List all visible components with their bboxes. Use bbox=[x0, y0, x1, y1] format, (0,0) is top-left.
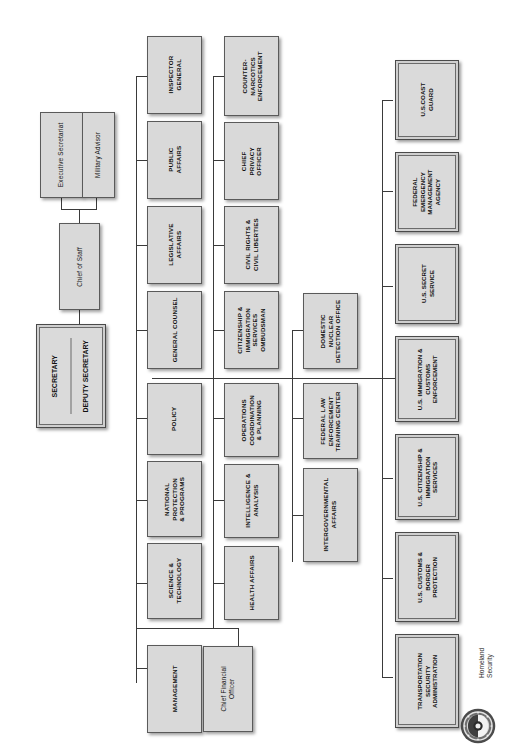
riser-offices-row2-lower bbox=[213, 378, 214, 628]
box-us-immigration-and-customs-enforcement[interactable]: U.S. IMMIGRATION &CUSTOMSENFORCEMENT bbox=[395, 336, 459, 422]
box-chief-privacy-officer[interactable]: CHIEFPRIVACYOFFICER bbox=[224, 122, 279, 200]
stub-coast-guard bbox=[382, 100, 393, 101]
general-counsel-label: GENERAL COUNSEL bbox=[171, 297, 179, 362]
us-secret-service-label: U.S. SECRETSERVICE bbox=[419, 265, 434, 304]
secretary-label: SECRETARY bbox=[51, 355, 60, 397]
connector-mil-advisor-stub bbox=[96, 198, 97, 209]
box-intergovernmental-affairs[interactable]: INTERGOVERNMENTALAFFAIRS bbox=[303, 468, 358, 562]
box-general-counsel[interactable]: GENERAL COUNSEL bbox=[147, 291, 202, 369]
national-protection-and-programs-label: NATIONALPROTECTION& PROGRAMS bbox=[163, 477, 186, 522]
box-transportation-security-administration[interactable]: TRANSPORTATIONSECURITYADMINISTRATION bbox=[395, 634, 459, 728]
box-health-affairs[interactable]: HEALTH AFFAIRS bbox=[224, 546, 279, 620]
org-chart-canvas: Executive Secretariat Military Advisor C… bbox=[0, 0, 509, 753]
riser-management-bracket bbox=[136, 628, 137, 668]
box-us-coast-guard[interactable]: U.S.COASTGUARD bbox=[395, 60, 459, 140]
transportation-security-administration-label: TRANSPORTATIONSECURITYADMINISTRATION bbox=[416, 653, 439, 710]
citizenship-and-immigration-services-ombudsman-label: CITIZENSHIP &IMMIGRATIONSERVICESOMBUDSMA… bbox=[236, 306, 266, 353]
box-citizenship-and-immigration-services-ombudsman[interactable]: CITIZENSHIP &IMMIGRATIONSERVICESOMBUDSMA… bbox=[224, 291, 279, 369]
stub-public-affairs bbox=[136, 160, 147, 161]
stub-uscis bbox=[382, 478, 393, 479]
box-us-secret-service[interactable]: U.S. SECRETSERVICE bbox=[395, 244, 459, 324]
box-inspector-general[interactable]: INSPECTORGENERAL bbox=[147, 36, 202, 114]
box-domestic-nuclear-detection-office[interactable]: DOMESTICNUCLEARDETECTION OFFICE bbox=[303, 293, 358, 369]
stub-chief-privacy bbox=[213, 160, 224, 161]
box-executive-secretariat[interactable]: Executive Secretariat bbox=[40, 112, 83, 198]
bracket-management-cfo bbox=[136, 628, 238, 629]
main-trunk bbox=[152, 378, 402, 379]
stub-cbp bbox=[382, 578, 393, 579]
science-and-technology-label: SCIENCE &TECHNOLOGY bbox=[167, 558, 182, 604]
box-federal-emergency-management-agency[interactable]: FEDERALEMERGENCYMANAGEMENTAGENCY bbox=[395, 152, 459, 232]
box-policy[interactable]: POLICY bbox=[147, 383, 202, 455]
stub-policy bbox=[136, 418, 147, 419]
stub-inspector-general bbox=[136, 76, 147, 77]
connector-staff-to-cos bbox=[79, 209, 80, 223]
stub-fletc bbox=[292, 418, 303, 419]
stub-tsa bbox=[382, 677, 393, 678]
federal-law-enforcement-training-center-label: FEDERAL LAWENFORCEMENTTRAINING CENTER bbox=[319, 391, 342, 451]
box-legislative-affairs[interactable]: LEGISLATIVEAFFAIRS bbox=[147, 206, 202, 284]
stub-secret-service bbox=[382, 286, 393, 287]
box-science-and-technology[interactable]: SCIENCE &TECHNOLOGY bbox=[147, 543, 202, 619]
box-federal-law-enforcement-training-center[interactable]: FEDERAL LAWENFORCEMENTTRAINING CENTER bbox=[303, 383, 358, 459]
management-label: MANAGEMENT bbox=[171, 665, 179, 712]
riser-operating-components bbox=[382, 100, 383, 677]
stub-general-counsel bbox=[136, 330, 147, 331]
stub-national-protection bbox=[136, 500, 147, 501]
stub-management bbox=[136, 668, 147, 669]
intergovernmental-affairs-label: INTERGOVERNMENTALAFFAIRS bbox=[323, 478, 338, 552]
counternarcotics-enforcement-label: COUNTER-NARCOTICSENFORCEMENT bbox=[240, 51, 263, 101]
public-affairs-label: PUBLICAFFAIRS bbox=[167, 146, 182, 174]
chief-of-staff-label: Chief of Staff bbox=[76, 247, 84, 287]
box-counternarcotics-enforcement[interactable]: COUNTER-NARCOTICSENFORCEMENT bbox=[224, 36, 279, 116]
dhs-seal-group: Homeland Security bbox=[452, 684, 508, 748]
seal-caption-line2: Security bbox=[486, 648, 494, 678]
us-citizenship-and-immigration-services-label: U.S. CITIZENSHIP &IMMIGRATIONSERVICES bbox=[416, 448, 439, 506]
box-us-customs-and-border-protection[interactable]: U.S. CUSTOMS &BORDERPROTECTION bbox=[395, 532, 459, 622]
seal-caption: Homeland Security bbox=[478, 648, 494, 678]
box-intelligence-and-analysis[interactable]: INTELLIGENCE &ANALYSIS bbox=[224, 464, 279, 538]
chief-privacy-officer-label: CHIEFPRIVACYOFFICER bbox=[240, 147, 263, 176]
box-national-protection-and-programs[interactable]: NATIONALPROTECTION& PROGRAMS bbox=[147, 461, 202, 537]
box-operations-coordination-and-planning[interactable]: OPERATIONSCOORDINATION& PLANNING bbox=[224, 383, 279, 457]
operations-coordination-and-planning-label: OPERATIONSCOORDINATION& PLANNING bbox=[240, 395, 263, 445]
box-secretary-deputy-secretary[interactable]: SECRETARY DEPUTY SECRETARY bbox=[36, 324, 106, 428]
stub-fema bbox=[382, 191, 393, 192]
connector-exec-sec-stub bbox=[61, 198, 62, 209]
dhs-seal-icon bbox=[460, 708, 496, 744]
federal-emergency-management-agency-label: FEDERALEMERGENCYMANAGEMENTAGENCY bbox=[412, 169, 442, 214]
stub-ice bbox=[382, 378, 393, 379]
stub-science-technology bbox=[136, 583, 147, 584]
box-civil-rights-and-civil-liberties[interactable]: CIVIL RIGHTS &CIVIL LIBERTIES bbox=[224, 206, 279, 284]
secretary-half: SECRETARY bbox=[40, 328, 71, 424]
box-chief-financial-officer[interactable]: Chief FinancialOfficer bbox=[203, 646, 253, 732]
stub-domestic-nuclear bbox=[292, 330, 303, 331]
stub-health-affairs bbox=[213, 583, 224, 584]
deputy-secretary-half: DEPUTY SECRETARY bbox=[71, 328, 102, 424]
stub-cis-ombudsman bbox=[213, 330, 224, 331]
health-affairs-label: HEALTH AFFAIRS bbox=[248, 555, 256, 610]
us-coast-guard-label: U.S.COASTGUARD bbox=[419, 83, 434, 117]
riser-offices-row3 bbox=[292, 330, 293, 562]
box-military-advisor[interactable]: Military Advisor bbox=[82, 112, 115, 198]
military-advisor-label: Military Advisor bbox=[95, 132, 103, 178]
box-chief-of-staff[interactable]: Chief of Staff bbox=[59, 223, 100, 310]
stub-legislative-affairs bbox=[136, 245, 147, 246]
box-management[interactable]: MANAGEMENT bbox=[147, 645, 202, 733]
connector-cos-to-secretary bbox=[79, 310, 80, 324]
box-public-affairs[interactable]: PUBLICAFFAIRS bbox=[147, 121, 202, 199]
box-us-citizenship-and-immigration-services[interactable]: U.S. CITIZENSHIP &IMMIGRATIONSERVICES bbox=[395, 434, 459, 520]
us-customs-and-border-protection-label: U.S. CUSTOMS &BORDERPROTECTION bbox=[416, 552, 439, 603]
connector-cfo bbox=[238, 628, 239, 646]
stub-intelligence-analysis bbox=[213, 500, 224, 501]
deputy-secretary-label: DEPUTY SECRETARY bbox=[82, 340, 91, 413]
us-immigration-and-customs-enforcement-label: U.S. IMMIGRATION &CUSTOMSENFORCEMENT bbox=[416, 348, 439, 410]
inspector-general-label: INSPECTORGENERAL bbox=[167, 56, 182, 94]
riser-offices-row1 bbox=[136, 76, 137, 378]
stub-operations-coordination bbox=[213, 418, 224, 419]
executive-secretariat-label: Executive Secretariat bbox=[58, 123, 66, 188]
chief-financial-officer-label: Chief FinancialOfficer bbox=[220, 666, 236, 711]
intelligence-and-analysis-label: INTELLIGENCE &ANALYSIS bbox=[244, 474, 259, 528]
domestic-nuclear-detection-office-label: DOMESTICNUCLEARDETECTION OFFICE bbox=[319, 299, 342, 362]
policy-label: POLICY bbox=[171, 407, 179, 431]
